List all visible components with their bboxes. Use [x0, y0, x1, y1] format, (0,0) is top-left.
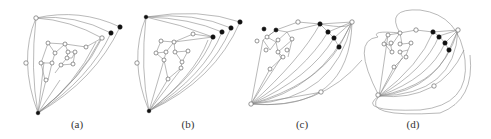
- node: [65, 56, 69, 60]
- node: [281, 55, 285, 59]
- node: [39, 61, 43, 65]
- node: [172, 40, 176, 44]
- node-black: [144, 15, 148, 19]
- node: [63, 42, 67, 46]
- node: [71, 62, 75, 66]
- node-black: [147, 109, 151, 113]
- node: [409, 41, 413, 45]
- node-black: [318, 22, 322, 26]
- node-black: [274, 28, 278, 32]
- node: [34, 16, 38, 20]
- node: [398, 50, 402, 54]
- node: [389, 41, 393, 45]
- node: [66, 50, 70, 54]
- node: [398, 42, 402, 46]
- caption-d: (d): [398, 118, 428, 130]
- node: [390, 50, 394, 54]
- panel-b-graph: [135, 13, 242, 112]
- node-black: [211, 35, 215, 39]
- node-black: [220, 30, 224, 34]
- node-black: [238, 20, 242, 24]
- node: [191, 32, 195, 36]
- node: [50, 61, 54, 65]
- node-black: [332, 36, 336, 40]
- node: [382, 42, 386, 46]
- node-black: [437, 35, 441, 39]
- node: [319, 90, 323, 94]
- node: [73, 50, 77, 54]
- node: [414, 28, 418, 32]
- node: [84, 45, 88, 49]
- node-black: [109, 31, 113, 35]
- node-black: [431, 30, 435, 34]
- node: [285, 48, 289, 52]
- node-black: [443, 41, 447, 45]
- node: [44, 78, 48, 82]
- node: [404, 55, 408, 59]
- node: [249, 102, 253, 106]
- node: [268, 67, 272, 71]
- node: [180, 60, 184, 64]
- node: [135, 61, 139, 65]
- node-black: [36, 111, 40, 115]
- caption-b: (b): [173, 118, 203, 130]
- node: [296, 20, 300, 24]
- node: [432, 84, 436, 88]
- panel-c-graph: [249, 20, 362, 106]
- panel-d-graph: [364, 10, 470, 114]
- node: [59, 63, 63, 67]
- node: [376, 93, 380, 97]
- node: [392, 65, 396, 69]
- node: [456, 28, 460, 32]
- node: [159, 39, 163, 43]
- node: [265, 35, 269, 39]
- node: [162, 58, 166, 62]
- node: [179, 66, 183, 70]
- node-black: [337, 45, 341, 49]
- node: [24, 61, 28, 65]
- caption-a: (a): [62, 118, 92, 130]
- node: [398, 31, 402, 35]
- node: [173, 50, 177, 54]
- node: [386, 33, 390, 37]
- node: [186, 49, 190, 53]
- node: [264, 48, 268, 52]
- node: [100, 36, 104, 40]
- node: [154, 51, 158, 55]
- node: [53, 51, 57, 55]
- node: [166, 77, 170, 81]
- node-black: [326, 30, 330, 34]
- node: [276, 38, 280, 42]
- node: [290, 37, 294, 41]
- node-black: [447, 48, 451, 52]
- node: [350, 20, 354, 24]
- node-black: [262, 27, 266, 31]
- node: [46, 41, 50, 45]
- node-black: [118, 25, 122, 29]
- panel-a-graph: [24, 15, 122, 115]
- node: [276, 50, 280, 54]
- caption-c: (c): [287, 118, 317, 130]
- node: [255, 39, 259, 43]
- node: [164, 50, 168, 54]
- node-black: [229, 26, 233, 30]
